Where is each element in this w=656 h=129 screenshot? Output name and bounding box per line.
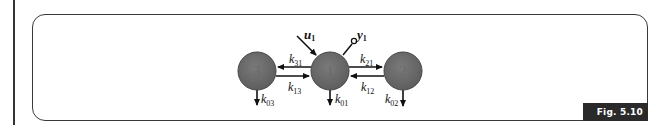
label-k21: k21 [360,52,373,68]
output-probe-y1 [343,38,357,55]
label-y1: y1 [355,27,367,43]
label-k02: k02 [385,92,398,108]
label-k03: k03 [261,92,274,108]
compartment-3-label: 3 [254,64,261,79]
compartment-2: 2 [384,52,422,90]
label-k12: k12 [361,80,374,96]
label-k01: k01 [335,92,348,108]
compartment-diagram: 3 1 2 k31 k13 k21 k12 k03 k01 k02 u1 y1 [0,0,656,129]
figure-number-badge: Fig. 5.10 [583,103,648,121]
compartment-3: 3 [238,52,276,90]
label-k31: k31 [289,52,302,68]
label-k13: k13 [288,80,301,96]
compartment-1: 1 [311,52,349,90]
compartment-1-label: 1 [327,64,334,79]
compartment-2-label: 2 [400,64,407,79]
label-u1: u1 [304,27,315,43]
